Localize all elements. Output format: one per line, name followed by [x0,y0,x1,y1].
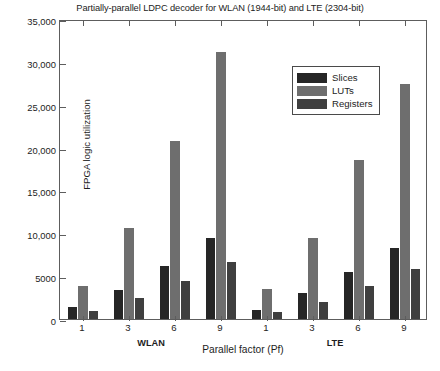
bar [89,311,99,319]
bar [273,312,283,319]
x-tick-mark-top [313,21,314,26]
bar [298,293,308,319]
x-tick-mark [313,316,314,321]
bar [262,289,272,319]
bar [124,228,134,319]
y-tick-mark [60,321,66,322]
bar [344,272,354,319]
chart-figure: Partially-parallel LDPC decoder for WLAN… [0,0,440,371]
x-tick-mark [129,316,130,321]
x-axis-title: Parallel factor (Pf) [59,344,427,355]
y-axis-title: FPGA logic utilization [81,55,92,235]
x-tick-mark [267,316,268,321]
x-tick-mark-top [267,21,268,26]
x-tick-label: 6 [171,322,176,333]
legend-label: LUTs [332,86,354,96]
y-tick-mark [60,192,66,193]
x-tick-label: 1 [263,322,268,333]
x-tick-label: 9 [401,322,406,333]
chart-title: Partially-parallel LDPC decoder for WLAN… [0,3,440,13]
y-tick-label: 0 [51,316,56,327]
y-tick-label: 15,000 [27,187,56,198]
bar [78,286,88,319]
bar [160,266,170,319]
x-tick-mark [359,316,360,321]
bar [114,290,124,319]
plot-area: FPGA logic utilization 0500010,00015,000… [59,20,427,320]
y-tick-mark [60,235,66,236]
legend-label: Registers [332,99,373,109]
bar [390,248,400,319]
bar [354,160,364,319]
x-tick-mark-top [405,21,406,26]
legend-swatch [297,99,327,109]
y-tick-label: 35,000 [27,16,56,27]
legend-swatch [297,73,327,83]
bar [135,298,145,319]
bar [206,238,216,319]
legend-label: Slices [332,73,358,83]
x-tick-label: 1 [79,322,84,333]
y-tick-label: 25,000 [27,101,56,112]
bar [308,238,318,319]
y-tick-mark [60,64,66,65]
bar [216,52,226,319]
x-tick-mark-top [83,21,84,26]
x-tick-label: 3 [125,322,130,333]
x-tick-mark [221,316,222,321]
x-tick-mark [83,316,84,321]
y-tick-mark [60,150,66,151]
legend-swatch [297,86,327,96]
bar [319,302,329,319]
bar [252,310,262,319]
bar [170,141,180,319]
y-tick-label: 30,000 [27,58,56,69]
bar [400,84,410,319]
x-tick-mark-top [359,21,360,26]
y-tick-mark [60,21,66,22]
x-tick-mark-top [129,21,130,26]
y-tick-label: 10,000 [27,230,56,241]
bar [68,307,78,319]
x-tick-label: 9 [217,322,222,333]
bar [181,281,191,319]
legend-item: Registers [297,97,373,110]
x-tick-mark [405,316,406,321]
x-tick-label: 6 [355,322,360,333]
x-tick-mark-top [221,21,222,26]
bar [411,269,421,319]
bar [365,286,375,319]
y-tick-label: 5000 [35,273,56,284]
bar [227,262,237,319]
x-tick-mark-top [175,21,176,26]
y-tick-label: 20,000 [27,144,56,155]
x-tick-mark [175,316,176,321]
x-tick-label: 3 [309,322,314,333]
y-tick-mark [60,278,66,279]
chart-legend: SlicesLUTsRegisters [292,66,380,115]
legend-item: Slices [297,71,373,84]
y-tick-mark [60,107,66,108]
legend-item: LUTs [297,84,373,97]
